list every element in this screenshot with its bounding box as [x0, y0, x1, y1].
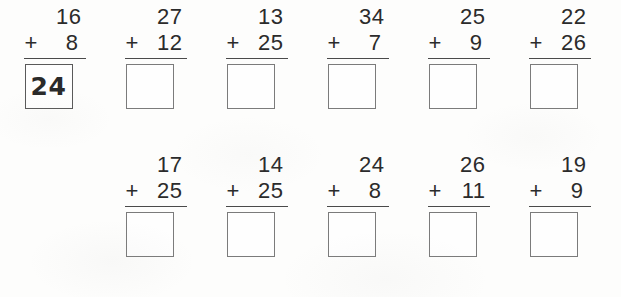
- answer-box[interactable]: [227, 212, 275, 257]
- addition-problem: 27+12: [105, 4, 206, 140]
- addend-bottom-value: 9: [571, 178, 584, 204]
- addend-bottom-value: 7: [369, 30, 382, 56]
- problem-stack: 17+25: [125, 152, 187, 257]
- addend-bottom: +9: [529, 178, 591, 204]
- sum-rule-line: [24, 58, 86, 59]
- problem-stack: 27+12: [125, 4, 187, 109]
- addend-bottom-value: 9: [470, 30, 483, 56]
- sum-rule-line: [428, 58, 490, 59]
- sum-rule-line: [529, 206, 591, 207]
- addend-top: 34: [327, 4, 389, 30]
- addend-bottom: +8: [24, 30, 86, 56]
- addend-top: 22: [529, 4, 591, 30]
- plus-sign: +: [125, 30, 139, 56]
- addend-bottom: +11: [428, 178, 490, 204]
- addition-problem: 26+11: [408, 152, 509, 288]
- plus-sign: +: [327, 178, 341, 204]
- addend-bottom: +25: [226, 30, 288, 56]
- addend-top: 25: [428, 4, 490, 30]
- sum-rule-line: [125, 58, 187, 59]
- sum-rule-line: [327, 58, 389, 59]
- addend-top: 16: [24, 4, 86, 30]
- problem-stack: 22+26: [529, 4, 591, 109]
- addend-top: 24: [327, 152, 389, 178]
- plus-sign: +: [529, 178, 543, 204]
- sum-rule-line: [529, 58, 591, 59]
- answer-box[interactable]: [126, 64, 174, 109]
- answer-box[interactable]: [429, 64, 477, 109]
- addition-problem: 34+7: [307, 4, 408, 140]
- plus-sign: +: [327, 30, 341, 56]
- problem-stack: 14+25: [226, 152, 288, 257]
- addend-bottom: +25: [125, 178, 187, 204]
- addend-bottom: +26: [529, 30, 591, 56]
- problem-stack: 13+25: [226, 4, 288, 109]
- plus-sign: +: [529, 30, 543, 56]
- answer-box[interactable]: [530, 64, 578, 109]
- addend-bottom-value: 8: [369, 178, 382, 204]
- sum-rule-line: [428, 206, 490, 207]
- addend-bottom-value: 26: [561, 30, 586, 56]
- addend-bottom: +7: [327, 30, 389, 56]
- addend-bottom-value: 8: [66, 30, 79, 56]
- addend-bottom-value: 25: [157, 178, 182, 204]
- plus-sign: +: [125, 178, 139, 204]
- addend-top: 13: [226, 4, 288, 30]
- problem-stack: 19+9: [529, 152, 591, 257]
- problem-row-1: 16+82427+1213+2534+725+922+26: [0, 4, 621, 144]
- addend-bottom-value: 12: [157, 30, 182, 56]
- addition-problem: 19+9: [509, 152, 610, 288]
- sum-rule-line: [226, 206, 288, 207]
- sum-rule-line: [125, 206, 187, 207]
- addition-worksheet: 16+82427+1213+2534+725+922+26 17+2514+25…: [0, 0, 621, 297]
- answer-box[interactable]: [530, 212, 578, 257]
- addend-top: 19: [529, 152, 591, 178]
- addend-top: 26: [428, 152, 490, 178]
- addition-problem: 25+9: [408, 4, 509, 140]
- plus-sign: +: [428, 30, 442, 56]
- addend-bottom-value: 11: [462, 178, 486, 204]
- plus-sign: +: [226, 178, 240, 204]
- problem-stack: 25+9: [428, 4, 490, 109]
- sum-rule-line: [327, 206, 389, 207]
- problem-stack: 16+824: [24, 4, 86, 109]
- problem-row-2: 17+2514+2524+826+1119+9: [0, 152, 621, 292]
- plus-sign: +: [428, 178, 442, 204]
- problem-stack: 34+7: [327, 4, 389, 109]
- addition-problem: 13+25: [206, 4, 307, 140]
- answer-box[interactable]: [328, 212, 376, 257]
- addend-bottom-value: 25: [258, 30, 283, 56]
- addend-bottom: +8: [327, 178, 389, 204]
- answer-box[interactable]: [328, 64, 376, 109]
- answer-value: 24: [31, 74, 67, 99]
- answer-box[interactable]: 24: [25, 64, 73, 109]
- addend-top: 17: [125, 152, 187, 178]
- answer-box[interactable]: [126, 212, 174, 257]
- addend-bottom: +12: [125, 30, 187, 56]
- sum-rule-line: [226, 58, 288, 59]
- plus-sign: +: [24, 30, 38, 56]
- addition-problem: 22+26: [509, 4, 610, 140]
- answer-box[interactable]: [227, 64, 275, 109]
- addend-bottom-value: 25: [258, 178, 283, 204]
- addition-problem: 24+8: [307, 152, 408, 288]
- answer-box[interactable]: [429, 212, 477, 257]
- addend-top: 14: [226, 152, 288, 178]
- addend-top: 27: [125, 4, 187, 30]
- addition-problem: 16+824: [4, 4, 105, 140]
- problem-stack: 26+11: [428, 152, 490, 257]
- addend-bottom: +9: [428, 30, 490, 56]
- addition-problem: 14+25: [206, 152, 307, 288]
- addition-problem: 17+25: [105, 152, 206, 288]
- addend-bottom: +25: [226, 178, 288, 204]
- problem-stack: 24+8: [327, 152, 389, 257]
- plus-sign: +: [226, 30, 240, 56]
